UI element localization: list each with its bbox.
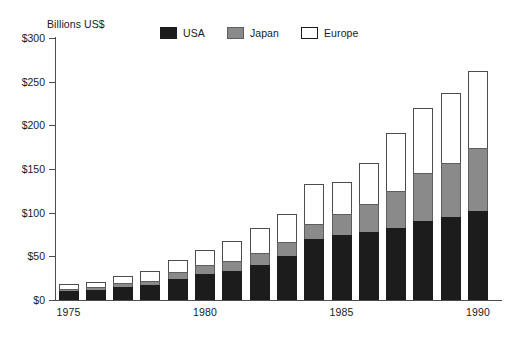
bar-segment-europe-1978 — [140, 271, 160, 281]
bar-segment-usa-1975 — [59, 291, 79, 300]
bar-segment-europe-1977 — [113, 276, 133, 283]
bar-segment-japan-1986 — [359, 204, 379, 232]
bar-1988[interactable] — [413, 108, 433, 300]
bar-1986[interactable] — [359, 163, 379, 300]
bar-segment-usa-1986 — [359, 232, 379, 300]
bar-segment-usa-1977 — [113, 287, 133, 300]
bar-segment-japan-1989 — [441, 163, 461, 217]
bar-1989[interactable] — [441, 93, 461, 300]
bar-segment-japan-1987 — [386, 191, 406, 228]
bar-segment-japan-1990 — [468, 148, 488, 211]
bar-1982[interactable] — [250, 228, 270, 300]
bar-segment-europe-1982 — [250, 228, 270, 252]
bar-segment-europe-1979 — [168, 260, 188, 272]
bar-segment-europe-1983 — [277, 214, 297, 243]
bar-segment-japan-1981 — [222, 261, 242, 271]
bar-group — [0, 0, 509, 347]
bar-segment-japan-1982 — [250, 253, 270, 265]
bar-segment-usa-1990 — [468, 211, 488, 300]
bar-segment-japan-1984 — [304, 224, 324, 239]
bar-segment-europe-1984 — [304, 184, 324, 224]
x-axis-label-1985: 1985 — [330, 306, 354, 318]
bar-segment-japan-1980 — [195, 265, 215, 274]
bar-1979[interactable] — [168, 260, 188, 300]
bar-1981[interactable] — [222, 241, 242, 300]
bar-segment-japan-1985 — [332, 214, 352, 235]
bar-1983[interactable] — [277, 214, 297, 300]
bar-1977[interactable] — [113, 276, 133, 300]
bar-segment-europe-1988 — [413, 108, 433, 174]
bar-segment-usa-1985 — [332, 235, 352, 301]
bar-segment-europe-1980 — [195, 250, 215, 265]
bar-1978[interactable] — [140, 271, 160, 300]
x-axis-label-1975: 1975 — [57, 306, 81, 318]
bar-segment-japan-1988 — [413, 173, 433, 221]
bar-1985[interactable] — [332, 182, 352, 300]
bar-segment-europe-1990 — [468, 71, 488, 148]
bar-1975[interactable] — [59, 284, 79, 300]
bar-segment-usa-1984 — [304, 239, 324, 300]
bar-segment-europe-1987 — [386, 133, 406, 191]
bar-1976[interactable] — [86, 282, 106, 300]
bar-segment-japan-1979 — [168, 272, 188, 279]
x-axis-label-1980: 1980 — [193, 306, 217, 318]
bar-1987[interactable] — [386, 133, 406, 300]
bar-segment-usa-1989 — [441, 217, 461, 300]
bar-segment-usa-1976 — [86, 290, 106, 300]
bar-1990[interactable] — [468, 71, 488, 300]
bar-segment-usa-1982 — [250, 265, 270, 300]
bar-segment-usa-1979 — [168, 279, 188, 300]
bar-segment-usa-1988 — [413, 221, 433, 300]
bar-segment-usa-1978 — [140, 285, 160, 300]
bar-segment-europe-1981 — [222, 241, 242, 261]
bar-segment-usa-1983 — [277, 256, 297, 300]
bar-segment-usa-1981 — [222, 271, 242, 300]
bar-1984[interactable] — [304, 184, 324, 300]
bar-1980[interactable] — [195, 250, 215, 300]
bar-segment-europe-1989 — [441, 93, 461, 163]
bar-segment-japan-1983 — [277, 242, 297, 256]
bar-segment-usa-1987 — [386, 228, 406, 300]
bar-segment-europe-1986 — [359, 163, 379, 204]
stacked-bar-chart: Billions US$ USA Japan Europe $0$50$100$… — [0, 0, 509, 347]
x-axis-label-1990: 1990 — [466, 306, 490, 318]
bar-segment-europe-1985 — [332, 182, 352, 213]
bar-segment-usa-1980 — [195, 274, 215, 300]
